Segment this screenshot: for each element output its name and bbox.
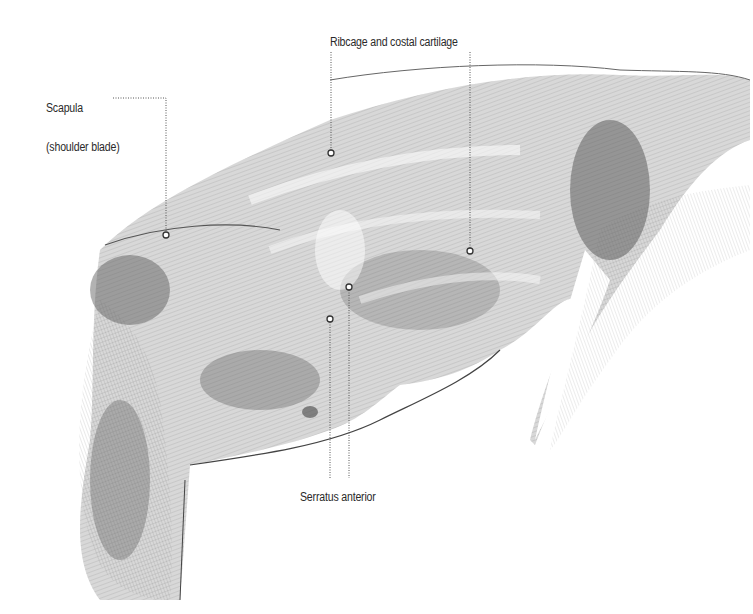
torso-drawing	[79, 65, 750, 600]
serratus-marker-1	[346, 284, 352, 290]
scapula-label: Scapula (shoulder blade)	[46, 76, 120, 167]
ribcage-label: Ribcage and costal cartilage	[330, 36, 458, 49]
ribcage-marker-2	[467, 248, 473, 254]
ribcage-marker-1	[328, 150, 334, 156]
scapula-label-line2: (shoulder blade)	[46, 141, 120, 154]
scapula-label-line1: Scapula	[46, 102, 120, 115]
scapula-marker	[163, 232, 169, 238]
serratus-marker-2	[327, 316, 333, 322]
serratus-label: Serratus anterior	[300, 491, 376, 504]
